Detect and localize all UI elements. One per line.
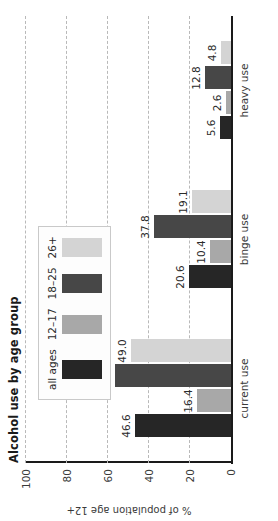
- bar[interactable]: 20.6: [189, 266, 231, 289]
- bar[interactable]: 12.8: [205, 67, 231, 90]
- bar[interactable]: 2.6: [226, 92, 231, 115]
- legend-label: 26+: [46, 236, 58, 258]
- legend-label: all ages: [46, 349, 58, 390]
- legend-swatch: [62, 315, 102, 334]
- bar[interactable]: 10.4: [210, 241, 231, 264]
- bar-slot: 19.1: [26, 191, 231, 214]
- legend-item[interactable]: 26+: [46, 236, 102, 258]
- bar[interactable]: 4.8: [221, 42, 231, 65]
- legend-swatch: [62, 238, 102, 257]
- legend-label: 12–17: [46, 308, 58, 340]
- bar-slot: 5.6: [26, 117, 231, 140]
- bar-value-label: 19.1: [177, 190, 189, 213]
- y-axis-label: % of population age 12+: [67, 505, 192, 516]
- bar-value-label: 49.0: [116, 339, 128, 362]
- bar[interactable]: 37.8: [154, 216, 231, 239]
- chart-title: Alcohol use by age group: [7, 296, 21, 463]
- y-tick-label: 60: [102, 469, 114, 482]
- bar[interactable]: 5.6: [220, 117, 231, 140]
- bar-value-label: 5.6: [205, 120, 217, 137]
- bar-group: 5.62.612.84.8heavy use: [26, 16, 231, 165]
- legend-item[interactable]: 12–17: [46, 308, 102, 340]
- bar-value-label: 20.6: [174, 265, 186, 288]
- bar-value-label: 2.6: [211, 95, 223, 112]
- y-tick-label: 100: [20, 469, 32, 489]
- y-tick-label: 20: [184, 469, 196, 482]
- bar-slot: 46.6: [26, 415, 231, 438]
- y-tick-label: 0: [225, 469, 237, 476]
- legend-label: 18–25: [46, 267, 58, 299]
- chart-figure: Alcohol use by age group % of population…: [0, 0, 278, 521]
- legend-swatch: [62, 360, 102, 379]
- bar-value-label: 37.8: [139, 215, 151, 238]
- bar[interactable]: 16.4: [197, 390, 231, 413]
- y-tick-label: 40: [143, 469, 155, 482]
- bar-value-label: 4.8: [206, 45, 218, 62]
- legend-item[interactable]: 18–25: [46, 267, 102, 299]
- bar[interactable]: 46.6: [135, 415, 231, 438]
- bar-value-label: 46.6: [120, 414, 132, 437]
- bar[interactable]: 56.8: [115, 365, 231, 388]
- rotated-figure-wrapper: Alcohol use by age group % of population…: [0, 0, 278, 521]
- bar[interactable]: 49.0: [131, 340, 231, 363]
- bar-slot: 2.6: [26, 92, 231, 115]
- y-tick-label: 80: [61, 469, 73, 482]
- legend-swatch: [62, 274, 102, 293]
- bar-value-label: 12.8: [190, 66, 202, 89]
- chart-legend: all ages12–1718–2526+: [38, 226, 111, 400]
- bar[interactable]: 19.1: [192, 191, 231, 214]
- x-category-label: current use: [238, 359, 250, 419]
- legend-item[interactable]: all ages: [46, 349, 102, 390]
- x-axis-line: [231, 16, 233, 464]
- bar-value-label: 10.4: [195, 240, 207, 263]
- bar-slot: 12.8: [26, 67, 231, 90]
- x-category-label: heavy use: [238, 64, 250, 118]
- bar-value-label: 16.4: [182, 389, 194, 412]
- bar-slot: 4.8: [26, 42, 231, 65]
- x-category-label: binge use: [238, 214, 250, 265]
